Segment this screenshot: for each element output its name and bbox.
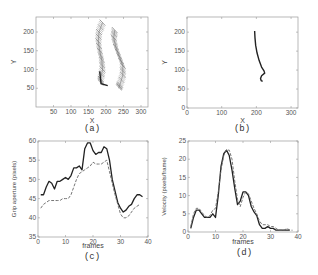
x-tick-label: 40 (294, 233, 302, 240)
y-tick-label: 50 (27, 84, 35, 91)
y-tick-label: 45 (29, 195, 37, 202)
x-tick-label: 100 (216, 109, 227, 116)
x-tick-label: 10 (62, 238, 70, 245)
x-tick-label: 200 (251, 109, 262, 116)
y-tick-label: 25 (179, 137, 187, 144)
x-tick-label: 30 (117, 238, 125, 245)
x-tick-label: 0 (36, 238, 40, 245)
panel-d: 0102030400510152025framesVelocity (pixel… (161, 137, 302, 258)
panel-caption: (d) (236, 248, 252, 258)
x-tick-label: 10 (212, 233, 220, 240)
y-tick-label: 50 (178, 85, 186, 92)
x-axis-label: X (90, 117, 95, 124)
x-axis-label: X (240, 117, 245, 124)
x-tick-label: 0 (185, 109, 189, 116)
x-tick-label: 300 (136, 108, 147, 115)
y-axis-label: Y (161, 60, 168, 65)
x-tick-label: 250 (118, 108, 129, 115)
y-tick-label: 35 (29, 233, 37, 240)
panel-caption: (a) (84, 124, 100, 134)
figure: 5010015020025030050100150200XY(a)0100200… (0, 0, 318, 275)
y-tick-label: 5 (182, 210, 186, 217)
x-axis-label: frames (232, 238, 254, 245)
x-axis-label: frames (82, 242, 104, 249)
y-tick-label: 150 (23, 47, 34, 54)
y-tick-label: 100 (23, 66, 34, 73)
y-axis-label: Y (10, 59, 17, 64)
panel-b: 0100200300050100150200XY(b) (161, 17, 298, 134)
axes-box (36, 17, 148, 107)
x-tick-label: 40 (144, 238, 152, 245)
panel-c: 010203040354045505560framesGrip aperture… (11, 137, 152, 262)
y-tick-label: 60 (29, 137, 37, 144)
y-tick-label: 0 (182, 228, 186, 235)
x-tick-label: 30 (267, 233, 275, 240)
y-tick-label: 150 (174, 47, 185, 54)
panel-caption: (b) (234, 124, 250, 134)
y-tick-label: 15 (179, 174, 187, 181)
y-tick-label: 40 (29, 214, 37, 221)
y-tick-label: 100 (174, 66, 185, 73)
y-tick-label: 55 (29, 156, 37, 163)
x-tick-label: 0 (186, 233, 190, 240)
y-tick-label: 200 (23, 28, 34, 35)
y-tick-label: 0 (181, 104, 185, 111)
axes-box (187, 17, 298, 108)
y-tick-label: 20 (179, 155, 187, 162)
y-tick-label: 50 (29, 176, 37, 183)
y-axis-label: Velocity (pixels/frame) (161, 157, 167, 216)
x-tick-label: 100 (66, 108, 77, 115)
x-tick-label: 150 (83, 108, 94, 115)
y-tick-label: 200 (174, 28, 185, 35)
panel-a: 5010015020025030050100150200XY(a) (10, 17, 148, 134)
x-tick-label: 200 (101, 108, 112, 115)
x-tick-label: 300 (286, 109, 297, 116)
panel-caption: (c) (84, 252, 100, 262)
axes-box (188, 141, 298, 232)
y-axis-label: Grip aperture (pixels) (11, 161, 17, 217)
x-tick-label: 50 (50, 108, 58, 115)
y-tick-label: 10 (179, 192, 187, 199)
